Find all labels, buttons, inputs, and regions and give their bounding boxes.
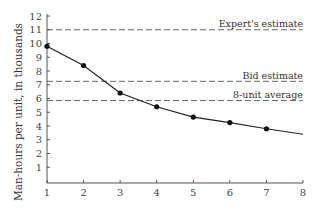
x-tick-label: 3 [117,187,123,198]
y-tick-label: 4 [36,121,42,132]
y-tick-label: 11 [29,24,42,35]
x-tick-label: 8 [300,187,306,198]
y-tick-label: 8 [36,66,42,77]
x-tick-label: 2 [80,187,86,198]
y-tick-label: 9 [36,52,42,63]
data-point-marker [154,104,159,109]
y-tick-label: 10 [29,38,42,49]
y-tick-label: 7 [36,79,42,90]
data-point-marker [44,44,49,49]
data-point-marker [81,63,86,68]
reference-line-label: Bid estimate [242,70,303,81]
y-axis-title: Man-hours per unit, in thousands [12,23,24,201]
y-tick-label: 2 [36,148,42,159]
data-point-marker [264,126,269,131]
reference-line-label: 8-unit average [233,89,303,100]
data-point-marker [191,114,196,119]
axes: 12345678910111212345678 [29,11,306,199]
reference-line-label: Expert's estimate [219,18,304,29]
y-tick-label: 1 [36,162,42,173]
learning-curve-chart: Expert's estimateBid estimate8-unit aver… [0,0,321,212]
y-tick-label: 6 [36,93,42,104]
y-tick-label: 5 [36,107,42,118]
data-point-marker [227,120,232,125]
x-tick-label: 7 [263,187,269,198]
x-tick-label: 4 [154,187,160,198]
reference-lines: Expert's estimateBid estimate8-unit aver… [47,18,303,100]
y-tick-label: 12 [29,11,42,22]
data-point-marker [118,90,123,95]
x-tick-label: 1 [44,187,50,198]
y-tick-label: 3 [36,134,42,145]
x-tick-label: 5 [190,187,196,198]
x-tick-label: 6 [227,187,233,198]
